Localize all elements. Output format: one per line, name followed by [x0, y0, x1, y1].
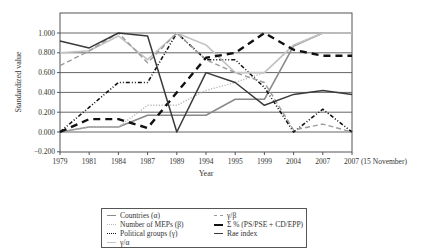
x-tick-label: 1987	[140, 157, 155, 166]
x-tick-label: 1981	[82, 157, 97, 166]
gridlines	[60, 33, 352, 132]
x-tick-label: 2004	[286, 157, 301, 166]
solid-line-icon	[214, 233, 223, 234]
y-tick-label: 0.800	[38, 48, 55, 57]
x-tick-label: 1995	[228, 157, 243, 166]
legend-item-sum-percent: Σ % (PS/PSE + CD/EPP)	[214, 220, 303, 229]
x-tick-label: 1994	[199, 157, 214, 166]
bold-dash-line-icon	[214, 224, 223, 226]
plot-area-frame	[60, 13, 352, 152]
series-line	[60, 33, 352, 132]
dashdot-line-icon	[107, 233, 116, 234]
series-line	[60, 33, 352, 132]
x-tick-label: 2007 (15 November)	[344, 157, 407, 166]
y-axis-title: Standardized value	[14, 51, 23, 113]
series-line	[60, 33, 352, 132]
legend-item-gamma-beta: γ/β	[214, 211, 236, 220]
series-line	[60, 33, 352, 132]
legend-item-meps: Number of MEPs (β)	[107, 220, 184, 229]
data-series	[60, 33, 352, 132]
dashed-line-icon	[214, 215, 223, 216]
x-tick-label: 1999	[257, 157, 272, 166]
chart-legend: Countries (α) γ/β Number of MEPs (β) Σ %…	[101, 208, 307, 248]
legend-item-rae-index: Rae index	[214, 229, 257, 238]
x-tick-label: 2007	[315, 157, 330, 166]
y-tick-label: 0.200	[38, 108, 55, 117]
x-axis-title: Year	[199, 169, 214, 178]
y-axis: −0.2000.0000.2000.4000.6000.8001.000	[34, 29, 60, 157]
solid-line-icon	[107, 215, 116, 216]
x-tick-label: 1979	[53, 157, 68, 166]
series-line	[60, 33, 352, 132]
y-tick-label: −0.200	[34, 147, 55, 156]
y-tick-label: 0.000	[38, 128, 55, 137]
x-tick-label: 1989	[169, 157, 184, 166]
legend-item-gamma-alpha: γ/α	[107, 238, 129, 247]
series-line	[60, 33, 352, 132]
legend-item-political-groups: Political groups (γ)	[107, 229, 177, 238]
dotted-line-icon	[107, 224, 116, 225]
legend-item-countries: Countries (α)	[107, 211, 160, 220]
y-tick-label: 0.400	[38, 88, 55, 97]
x-axis: 1979198119841987198919941995199920042007…	[53, 152, 408, 166]
x-tick-label: 1984	[111, 157, 126, 166]
y-tick-label: 1.000	[38, 29, 55, 38]
solid-line-icon	[107, 242, 116, 243]
y-tick-label: 0.600	[38, 68, 55, 77]
